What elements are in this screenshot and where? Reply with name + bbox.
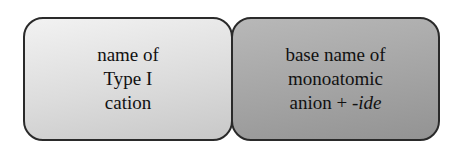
box-line: monoatomic [285,67,385,91]
box-line: name of [97,43,159,67]
box-line: Type I [97,67,159,91]
monoatomic-anion-box: base name of monoatomic anion + -ide [231,17,440,141]
type-i-cation-box: name of Type I cation [23,17,233,141]
box-line: base name of [285,43,385,67]
box-line-suffix: anion + -ide [285,91,385,115]
box-line: cation [97,91,159,115]
ide-suffix: -ide [352,92,382,113]
box-text: base name of monoatomic anion + -ide [285,43,385,115]
box-text: name of Type I cation [97,43,159,115]
anion-plus-text: anion + [290,92,352,113]
